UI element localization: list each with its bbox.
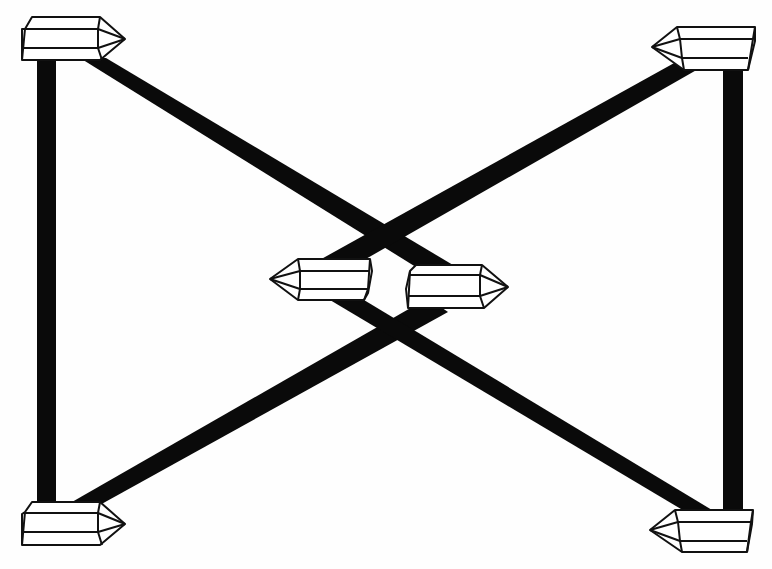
bar-bottomright-to-center bbox=[330, 294, 712, 512]
crystal-center-right bbox=[406, 265, 508, 308]
crystal-top-left bbox=[22, 17, 125, 60]
bar-right-vertical bbox=[723, 68, 743, 514]
crystal-grid-diagram bbox=[0, 0, 772, 569]
connector-bars bbox=[37, 58, 743, 514]
crystal-bottom-right bbox=[650, 510, 753, 552]
crystal-top-right bbox=[652, 27, 755, 70]
bar-topleft-to-center bbox=[80, 58, 458, 282]
bar-topright-to-center bbox=[316, 62, 700, 276]
diagram-canvas bbox=[0, 0, 772, 569]
bar-left-vertical bbox=[37, 58, 56, 506]
crystal-center-left bbox=[270, 259, 372, 300]
crystal-bottom-left bbox=[22, 502, 125, 545]
